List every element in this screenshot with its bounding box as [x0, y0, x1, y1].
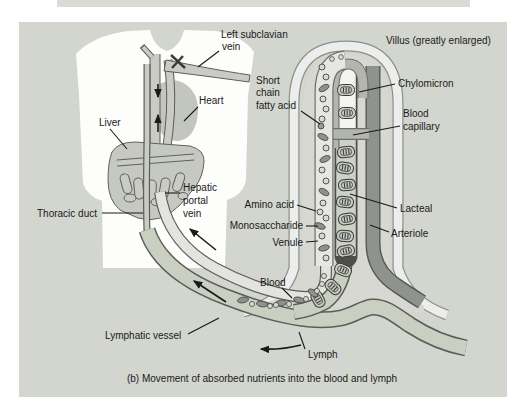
svg-text:capillary: capillary	[403, 121, 440, 132]
label-left-subclavian-vein: Left subclavian	[221, 29, 288, 40]
thoracic-duct-vessel	[147, 64, 148, 232]
label-lymphatic-vessel: Lymphatic vessel	[105, 330, 181, 341]
svg-text:chain: chain	[256, 87, 280, 98]
figure-caption: (b) Movement of absorbed nutrients into …	[127, 373, 397, 384]
label-arteriole: Arteriole	[391, 228, 429, 239]
label-venule: Venule	[272, 237, 303, 248]
label-liver: Liver	[99, 117, 121, 128]
label-thoracic-duct: Thoracic duct	[37, 208, 97, 219]
label-monosaccharide: Monosaccharide	[230, 220, 304, 231]
label-hepatic-portal-vein: Hepatic	[183, 182, 217, 193]
svg-text:fatty acid: fatty acid	[256, 100, 296, 111]
label-lymph: Lymph	[308, 349, 338, 360]
label-short-chain-fatty-acid: Short	[256, 75, 280, 86]
label-blood-capillary: Blood	[403, 108, 429, 119]
label-lacteal: Lacteal	[400, 203, 432, 214]
svg-text:portal: portal	[183, 195, 208, 206]
label-chylomicron: Chylomicron	[398, 78, 454, 89]
figure: Left subclavian vein Villus (greatly enl…	[0, 0, 527, 408]
label-villus: Villus (greatly enlarged)	[386, 35, 491, 46]
label-amino-acid: Amino acid	[245, 199, 294, 210]
svg-text:vein: vein	[222, 41, 240, 52]
adjacent-figure-edge	[57, 0, 470, 7]
label-blood: Blood	[260, 277, 286, 288]
svg-text:vein: vein	[183, 208, 201, 219]
anatomy-diagram: Left subclavian vein Villus (greatly enl…	[0, 0, 527, 408]
label-heart: Heart	[199, 95, 224, 106]
